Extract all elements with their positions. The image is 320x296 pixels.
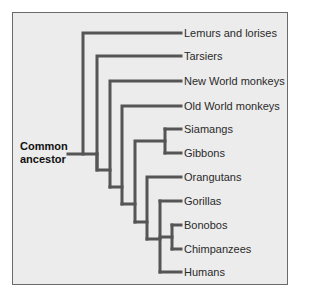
leaf-label-chimpanzees: Chimpanzees (184, 243, 251, 255)
leaf-label-gorillas: Gorillas (184, 195, 221, 207)
leaf-label-orangutans: Orangutans (184, 171, 241, 183)
leaf-label-siamangs: Siamangs (184, 123, 233, 135)
leaf-label-tarsiers: Tarsiers (184, 50, 223, 62)
leaf-label-bonobos: Bonobos (184, 219, 227, 231)
leaf-label-lemurs: Lemurs and lorises (184, 27, 277, 39)
root-label-line-2: ancestor (20, 153, 68, 166)
root-label-line-1: Common (20, 140, 68, 153)
branch-orangutans (147, 177, 181, 239)
branch-old-world (122, 106, 181, 204)
leaf-label-old-world-monkeys: Old World monkeys (184, 100, 280, 112)
common-ancestor-label: Common ancestor (20, 140, 68, 166)
leaf-label-gibbons: Gibbons (184, 147, 225, 159)
leaf-label-new-world-monkeys: New World monkeys (184, 75, 285, 87)
leaf-label-humans: Humans (184, 266, 225, 278)
